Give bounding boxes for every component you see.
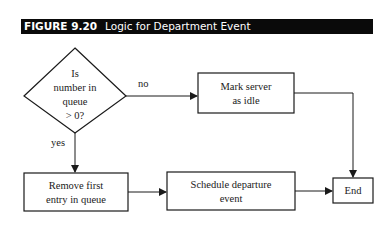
- schedule-line-2: event: [220, 193, 243, 204]
- mark-idle-line-1: Mark server: [220, 81, 272, 92]
- decision-line-4: > 0?: [66, 110, 85, 121]
- mark-idle-line-2: as idle: [232, 95, 259, 106]
- flowchart: Is number in queue > 0? no Mark server a…: [0, 0, 391, 228]
- remove-first-line-1: Remove first: [49, 180, 104, 191]
- end-label: End: [345, 185, 363, 196]
- schedule-line-1: Schedule departure: [191, 179, 272, 190]
- remove-first-box: Remove first entry in queue: [24, 173, 128, 211]
- edge-no-label: no: [138, 78, 149, 89]
- decision-diamond: Is number in queue > 0?: [24, 48, 126, 133]
- mark-idle-box: Mark server as idle: [198, 73, 294, 113]
- schedule-departure-box: Schedule departure event: [167, 172, 295, 210]
- end-box: End: [333, 178, 373, 203]
- edge-yes: yes: [51, 133, 75, 172]
- edge-idle-to-end: [294, 93, 353, 177]
- decision-line-3: queue: [62, 96, 87, 107]
- edge-no: no: [126, 78, 197, 96]
- decision-line-2: number in: [54, 82, 98, 93]
- remove-first-line-2: entry in queue: [46, 194, 106, 205]
- edge-yes-label: yes: [51, 137, 65, 148]
- decision-line-1: Is: [71, 68, 79, 79]
